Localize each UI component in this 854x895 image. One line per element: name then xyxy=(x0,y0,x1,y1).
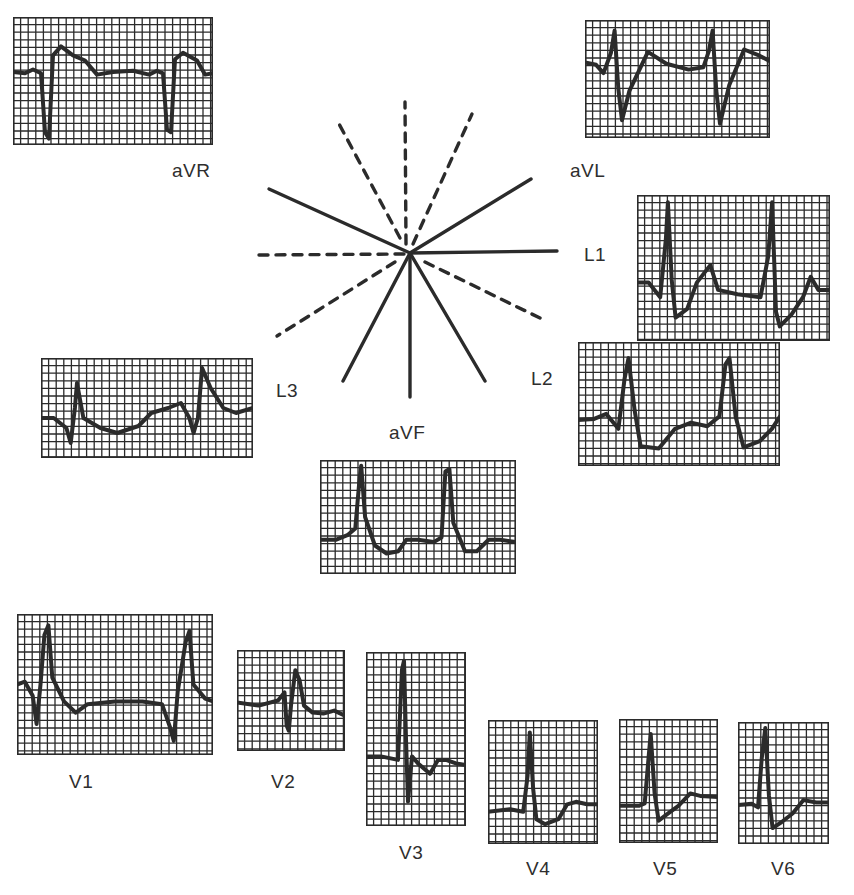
ecg-strip-v4 xyxy=(488,720,598,844)
ecg-strip-l2 xyxy=(578,342,780,466)
ecg-trace-v4 xyxy=(488,732,598,824)
lead-label-l1: L1 xyxy=(584,244,606,266)
axis-dashed-180 xyxy=(257,254,404,255)
ecg-grid-and-trace xyxy=(619,719,718,843)
axis-avl xyxy=(410,179,531,253)
lead-label-v3: V3 xyxy=(399,842,423,864)
lead-label-avf: aVF xyxy=(389,422,425,444)
axis-l1 xyxy=(410,251,557,253)
ecg-grid-and-trace xyxy=(578,342,780,466)
ecg-strip-v1 xyxy=(17,614,213,755)
ecg-strip-avl xyxy=(585,20,770,138)
axis-dashed-150 xyxy=(277,262,395,336)
lead-label-v5: V5 xyxy=(653,858,677,880)
ecg-grid-and-trace xyxy=(585,20,770,138)
lead-label-avr: aVR xyxy=(172,160,210,182)
ecg-grid xyxy=(738,722,829,844)
lead-label-v4: V4 xyxy=(526,858,550,880)
ecg-trace-l1 xyxy=(637,202,830,326)
ecg-grid-and-trace xyxy=(488,720,598,844)
lead-label-avl: aVL xyxy=(570,160,605,182)
axis-avr xyxy=(269,189,410,253)
ecg-strip-l1 xyxy=(637,195,830,341)
ecg-grid xyxy=(320,460,516,574)
ecg-trace-avl xyxy=(585,31,770,124)
ecg-grid xyxy=(578,342,780,466)
ecg-strip-v5 xyxy=(619,719,718,843)
lead-label-v2: V2 xyxy=(271,771,295,793)
ecg-grid-and-trace xyxy=(738,722,829,844)
ecg-strip-v3 xyxy=(366,652,466,826)
ecg-strip-avf xyxy=(320,460,516,574)
ecg-grid-and-trace xyxy=(13,17,213,145)
axis-dashed-minus60 xyxy=(413,114,472,244)
lead-label-v6: V6 xyxy=(771,858,795,880)
ecg-grid-and-trace xyxy=(366,652,466,826)
ecg-strip-avr xyxy=(13,17,213,145)
lead-label-v1: V1 xyxy=(69,771,93,793)
ecg-grid-and-trace xyxy=(637,195,830,341)
lead-label-l2: L2 xyxy=(531,368,553,390)
ecg-grid xyxy=(488,720,598,844)
ecg-grid-and-trace xyxy=(237,650,345,751)
ecg-grid xyxy=(619,719,718,843)
ecg-strip-v2 xyxy=(237,650,345,751)
ecg-grid-and-trace xyxy=(41,358,253,458)
ecg-grid-and-trace xyxy=(17,614,213,755)
ecg-grid xyxy=(366,652,466,826)
ecg-strip-l3 xyxy=(41,358,253,458)
lead-label-l3: L3 xyxy=(276,380,298,402)
ecg-grid-and-trace xyxy=(320,460,516,574)
axis-dashed-minus120 xyxy=(338,122,400,238)
ecg-strip-v6 xyxy=(738,722,829,844)
axis-dashed-minus90 xyxy=(405,102,406,244)
